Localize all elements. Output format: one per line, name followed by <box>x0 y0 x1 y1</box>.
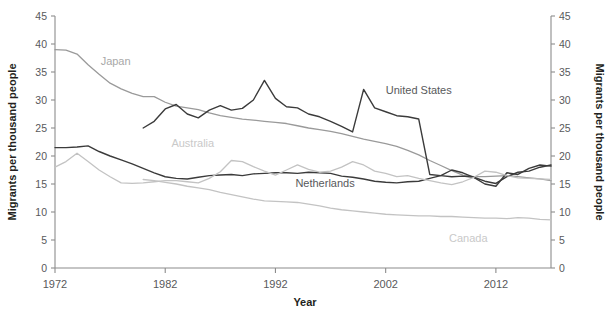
x-tick-label: 2012 <box>484 278 508 290</box>
chart-canvas: 0055101015152020252530303535404045451972… <box>0 0 610 314</box>
series-label-australia: Australia <box>171 137 215 149</box>
y-tick-label-left: 25 <box>35 122 47 134</box>
y-tick-label-right: 45 <box>559 10 571 22</box>
y-tick-label-right: 5 <box>559 234 565 246</box>
axes: 0055101015152020252530303535404045451972… <box>35 10 571 290</box>
series-label-united-states: United States <box>386 84 453 96</box>
y-tick-label-left: 20 <box>35 150 47 162</box>
x-tick-label: 1982 <box>153 278 177 290</box>
x-tick-label: 1972 <box>43 278 67 290</box>
x-axis-title: Year <box>293 296 317 308</box>
y-tick-label-left: 0 <box>41 262 47 274</box>
y-tick-label-left: 45 <box>35 10 47 22</box>
y-tick-label-right: 20 <box>559 150 571 162</box>
y-tick-label-right: 0 <box>559 262 565 274</box>
y-tick-label-left: 40 <box>35 38 47 50</box>
series-line-japan <box>55 50 551 181</box>
x-tick-label: 1992 <box>263 278 287 290</box>
y-tick-label-left: 10 <box>35 206 47 218</box>
y-axis-title-left: Migrants per thousand people <box>6 63 18 220</box>
series-line-united-states <box>143 80 551 186</box>
y-tick-label-right: 15 <box>559 178 571 190</box>
x-tick-label: 2002 <box>373 278 397 290</box>
y-tick-label-right: 35 <box>559 66 571 78</box>
y-tick-label-right: 25 <box>559 122 571 134</box>
y-axis-title-right: Migrants per thousand people <box>594 63 606 220</box>
y-tick-label-right: 40 <box>559 38 571 50</box>
y-tick-label-left: 35 <box>35 66 47 78</box>
y-tick-label-left: 15 <box>35 178 47 190</box>
y-tick-label-right: 30 <box>559 94 571 106</box>
y-tick-label-right: 10 <box>559 206 571 218</box>
y-tick-label-left: 30 <box>35 94 47 106</box>
line-chart: 0055101015152020252530303535404045451972… <box>0 0 610 314</box>
series-label-japan: Japan <box>101 55 131 67</box>
series-lines <box>55 50 551 220</box>
y-tick-label-left: 5 <box>41 234 47 246</box>
series-label-canada: Canada <box>449 232 488 244</box>
series-label-netherlands: Netherlands <box>295 177 355 189</box>
